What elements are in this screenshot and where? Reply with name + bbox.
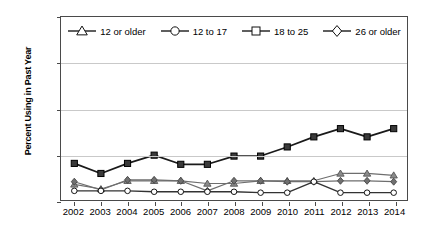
series-18-to-25 [71, 126, 397, 177]
circle-marker [311, 179, 317, 185]
square-icon [241, 25, 271, 37]
diamond-marker [333, 26, 342, 37]
square-marker [124, 160, 130, 166]
circle-marker [98, 188, 104, 194]
gridline [61, 156, 407, 157]
square-marker [252, 27, 260, 35]
y-tick-mark [57, 63, 61, 64]
circle-marker [178, 189, 184, 195]
legend: 12 or older12 to 1718 to 2526 or older [67, 25, 401, 37]
y-tick-mark [57, 156, 61, 157]
gridline [61, 63, 407, 64]
legend-item-26-or-older[interactable]: 26 or older [322, 25, 400, 37]
square-marker [391, 126, 397, 132]
square-marker [98, 170, 104, 176]
square-marker [284, 144, 290, 150]
y-tick-mark [57, 17, 61, 18]
diamond-icon [322, 25, 352, 37]
square-marker [178, 161, 184, 167]
y-axis-title: Percent Using in Past Year [23, 21, 33, 181]
legend-item-label: 12 to 17 [193, 26, 227, 37]
square-marker [71, 160, 77, 166]
diamond-marker [284, 178, 290, 185]
circle-marker [205, 189, 211, 195]
circle-marker [231, 189, 237, 195]
square-marker [337, 126, 343, 132]
circle-marker [391, 190, 397, 196]
square-marker [311, 134, 317, 140]
plot-area: 12 or older12 to 1718 to 2526 or older [60, 16, 408, 201]
circle-marker [364, 190, 370, 196]
circle-marker [151, 189, 157, 195]
circle-marker [72, 188, 78, 194]
legend-item-12-or-older[interactable]: 12 or older [67, 25, 145, 37]
legend-item-label: 26 or older [355, 26, 400, 37]
diamond-marker [391, 178, 397, 185]
x-tick-label: 2014 [375, 206, 415, 217]
legend-item-12-to-17[interactable]: 12 to 17 [160, 25, 227, 37]
diamond-marker [364, 177, 370, 184]
triangle-icon [67, 25, 97, 37]
line-chart: Percent Using in Past Year 12 or older12… [0, 0, 424, 243]
legend-item-label: 18 to 25 [274, 26, 308, 37]
circle-marker [338, 190, 344, 196]
circle-marker [284, 190, 290, 196]
diamond-marker [337, 177, 343, 184]
circle-marker [170, 27, 178, 35]
circle-marker [258, 190, 264, 196]
legend-item-18-to-25[interactable]: 18 to 25 [241, 25, 308, 37]
series-line [74, 129, 393, 174]
square-marker [364, 134, 370, 140]
series-layer [61, 17, 407, 200]
circle-marker [125, 188, 131, 194]
gridline [61, 110, 407, 111]
y-tick-mark [57, 110, 61, 111]
circle-icon [160, 25, 190, 37]
legend-item-label: 12 or older [100, 26, 145, 37]
square-marker [204, 161, 210, 167]
y-tick-mark [57, 202, 61, 203]
